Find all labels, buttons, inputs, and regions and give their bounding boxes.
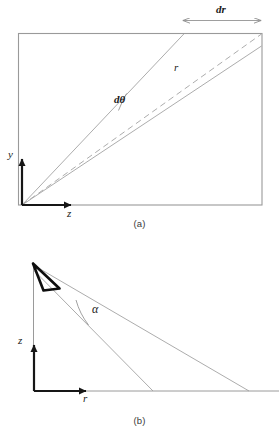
wedge-lower-ray	[22, 46, 262, 205]
axis-label-y: y	[8, 148, 13, 160]
label-alpha: α	[92, 302, 98, 317]
panel-b	[33, 262, 279, 391]
wedge-upper-ray	[22, 34, 184, 205]
panel-a	[19, 21, 263, 206]
axis-label-z-b: z	[18, 334, 22, 346]
angle-arc-alpha	[76, 300, 89, 325]
cone-upper-ray	[35, 266, 249, 391]
panel-a-caption: (a)	[0, 218, 279, 229]
panel-b-caption: (b)	[0, 415, 279, 426]
apex-wedge	[33, 264, 60, 291]
label-dtheta: dθ	[114, 93, 125, 105]
label-r: r	[174, 61, 178, 73]
figure-container: dr r dθ y z (a) α z r (b)	[0, 0, 279, 439]
wedge-center-line	[22, 34, 262, 205]
label-dr: dr	[216, 3, 226, 15]
axis-label-r: r	[83, 392, 87, 404]
